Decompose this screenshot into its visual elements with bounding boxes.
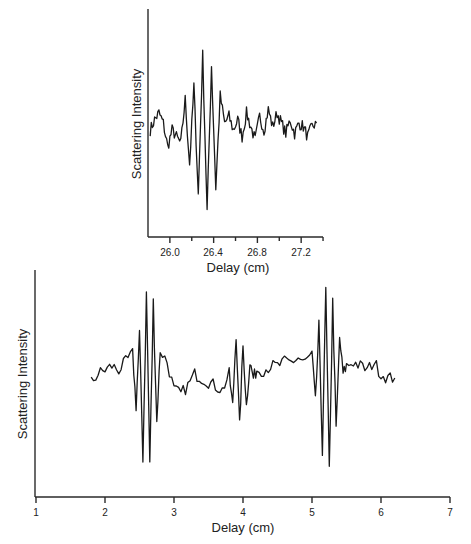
inset-chart: 26.0 26.4 26.8 27.2 Delay (cm) Scatterin… xyxy=(129,9,323,275)
inset-x-ticks xyxy=(170,237,323,243)
main-tick-label: 3 xyxy=(171,507,177,518)
main-tick-label: 7 xyxy=(447,507,453,518)
inset-waveform xyxy=(150,50,316,209)
inset-tick-label: 26.8 xyxy=(247,247,267,258)
main-tick-label: 4 xyxy=(240,507,246,518)
inset-tick-label: 27.2 xyxy=(291,247,311,258)
main-y-axis-title: Scattering Intensity xyxy=(15,328,30,439)
main-tick-label: 2 xyxy=(102,507,108,518)
main-tick-label: 1 xyxy=(33,507,39,518)
inset-y-axis-title: Scattering Intensity xyxy=(129,68,144,179)
main-tick-label: 6 xyxy=(378,507,384,518)
figure: 26.0 26.4 26.8 27.2 Delay (cm) Scatterin… xyxy=(0,0,471,544)
main-x-axis-title: Delay (cm) xyxy=(212,520,275,535)
main-chart: 1 2 3 4 5 6 7 Delay (cm) Scattering Inte… xyxy=(15,270,453,535)
main-waveform xyxy=(91,287,395,466)
main-tick-label: 5 xyxy=(309,507,315,518)
inset-x-axis-title: Delay (cm) xyxy=(207,260,270,275)
main-x-ticks xyxy=(36,497,450,503)
inset-tick-label: 26.4 xyxy=(203,247,223,258)
inset-tick-label: 26.0 xyxy=(160,247,180,258)
